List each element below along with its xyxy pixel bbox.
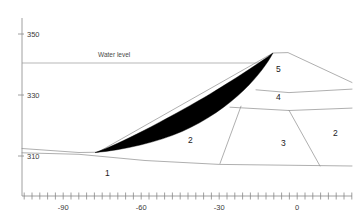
y-tick-label-330: 330 — [27, 91, 40, 100]
zone-label-4: 4 — [276, 92, 281, 102]
cross-section-plot: 350 330 310 — [0, 0, 357, 223]
zone-label-3: 3 — [281, 138, 286, 148]
core-right-boundary — [289, 110, 320, 166]
y-tick-label-350: 350 — [27, 30, 40, 39]
x-tick-label-zero: 0 — [295, 203, 299, 212]
x-tick-label-minus90: -90 — [58, 203, 69, 212]
core-left-boundary — [220, 106, 241, 163]
y-axis: 350 330 310 — [18, 18, 40, 196]
zone4-bottom-boundary — [230, 107, 352, 110]
x-tick-label-minus30: -30 — [214, 203, 225, 212]
slope-stability-cross-section-figure: 350 330 310 — [0, 0, 357, 223]
zone-label-2-downstream: 2 — [333, 128, 338, 138]
zone-label-5: 5 — [276, 64, 281, 74]
x-axis: -90 -60 -30 0 — [22, 193, 352, 213]
foundation-base-line — [22, 153, 352, 166]
zone-label-2-upstream: 2 — [188, 135, 193, 145]
x-tick-label-minus60: -60 — [136, 203, 147, 212]
zone-label-1: 1 — [105, 168, 110, 178]
zone4-top-boundary — [256, 89, 352, 93]
water-level-label: Water level — [98, 51, 131, 58]
